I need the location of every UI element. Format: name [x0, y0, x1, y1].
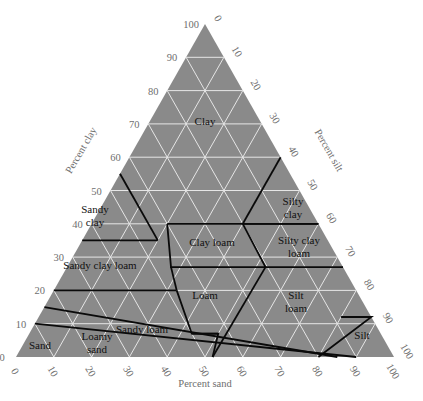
tick-clay: 0: [0, 352, 5, 363]
tick-sand: 20: [83, 364, 98, 379]
tick-sand: 40: [159, 364, 174, 379]
tick-clay: 10: [16, 319, 27, 330]
tick-clay: 80: [148, 86, 159, 97]
axis-title-clay: Percent clay: [63, 125, 99, 176]
tick-silt: 50: [305, 177, 320, 192]
tick-sand: 80: [310, 364, 325, 379]
region-label-clay: Clay: [195, 115, 216, 127]
tick-silt: 10: [230, 44, 245, 59]
tick-sand: 90: [348, 364, 363, 379]
tick-silt: 0: [212, 13, 224, 23]
region-label-loam: Loam: [192, 289, 218, 301]
region-label-silty-clay: Siltyclay: [283, 195, 304, 220]
tick-silt: 100: [398, 342, 415, 361]
region-label-silt: Silt: [354, 329, 369, 341]
tick-sand: 30: [121, 364, 136, 379]
tick-silt: 40: [286, 144, 301, 159]
tick-silt: 30: [267, 111, 282, 126]
tick-silt: 80: [362, 277, 377, 292]
soil-texture-triangle: 0010010109020208030307040406050505060604…: [0, 0, 423, 401]
tick-sand: 50: [197, 364, 212, 379]
region-label-clay-loam: Clay loam: [189, 236, 235, 248]
tick-clay: 40: [72, 219, 83, 230]
axis-title-silt: Percent silt: [313, 127, 346, 173]
region-label-sandy-loam: Sandy loam: [116, 323, 169, 335]
tick-silt: 60: [324, 211, 339, 226]
tick-silt: 20: [248, 78, 263, 93]
tick-sand: 60: [234, 364, 249, 379]
tick-sand: 0: [9, 366, 21, 376]
tick-silt: 70: [343, 244, 358, 259]
tick-sand: 10: [45, 364, 60, 379]
tick-sand: 70: [272, 364, 287, 379]
tick-sand: 100: [384, 362, 401, 381]
tick-clay: 20: [35, 285, 46, 296]
tick-silt: 90: [381, 311, 396, 326]
region-label-sand: Sand: [29, 339, 52, 351]
tick-clay: 60: [110, 152, 121, 163]
region-label-sandy-clay-loam: Sandy clay loam: [63, 259, 137, 271]
tick-clay: 50: [91, 186, 102, 197]
axis-title-sand: Percent sand: [178, 378, 232, 389]
tick-clay: 70: [129, 119, 140, 130]
tick-clay: 90: [167, 52, 178, 63]
tick-clay: 100: [183, 19, 199, 30]
